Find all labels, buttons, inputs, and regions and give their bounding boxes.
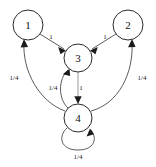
edge-4-to-1: 1/4 bbox=[10, 39, 65, 111]
node-1[interactable]: 1 bbox=[13, 10, 43, 40]
edge-2-to-3: 1 bbox=[90, 33, 116, 55]
node-4-label: 4 bbox=[75, 112, 81, 124]
node-2[interactable]: 2 bbox=[113, 10, 143, 40]
edge-4-self-loop-label: 1/4 bbox=[74, 153, 83, 161]
edge-1-to-3: 1 bbox=[40, 33, 66, 55]
node-1-label: 1 bbox=[25, 19, 31, 31]
edge-4-to-2: 1/4 bbox=[91, 39, 147, 111]
node-3[interactable]: 3 bbox=[64, 44, 92, 72]
node-4[interactable]: 4 bbox=[64, 104, 92, 132]
edge-4-to-2-path bbox=[91, 41, 132, 111]
edge-4-to-3-label: 1/4 bbox=[49, 84, 58, 92]
edge-4-to-1-path bbox=[24, 41, 65, 111]
edge-3-to-4-label: 1 bbox=[79, 84, 83, 92]
edge-3-to-4-arrowhead bbox=[74, 96, 81, 104]
edge-3-to-4: 1 bbox=[74, 72, 83, 104]
edge-4-to-1-label: 1/4 bbox=[10, 74, 19, 82]
edge-1-to-3-label: 1 bbox=[49, 33, 53, 41]
markov-chain-diagram: 1/4 1/4 1/4 1 1 1 bbox=[0, 0, 156, 167]
edge-4-to-3-path bbox=[61, 70, 69, 108]
edge-4-to-3: 1/4 bbox=[49, 69, 71, 108]
node-2-label: 2 bbox=[125, 19, 131, 31]
graph-canvas: 1/4 1/4 1/4 1 1 1 bbox=[0, 0, 156, 167]
edge-2-to-3-label: 1 bbox=[103, 33, 107, 41]
edge-4-to-2-label: 1/4 bbox=[138, 74, 147, 82]
node-3-label: 3 bbox=[75, 52, 81, 64]
edge-4-self-loop: 1/4 bbox=[62, 128, 95, 161]
